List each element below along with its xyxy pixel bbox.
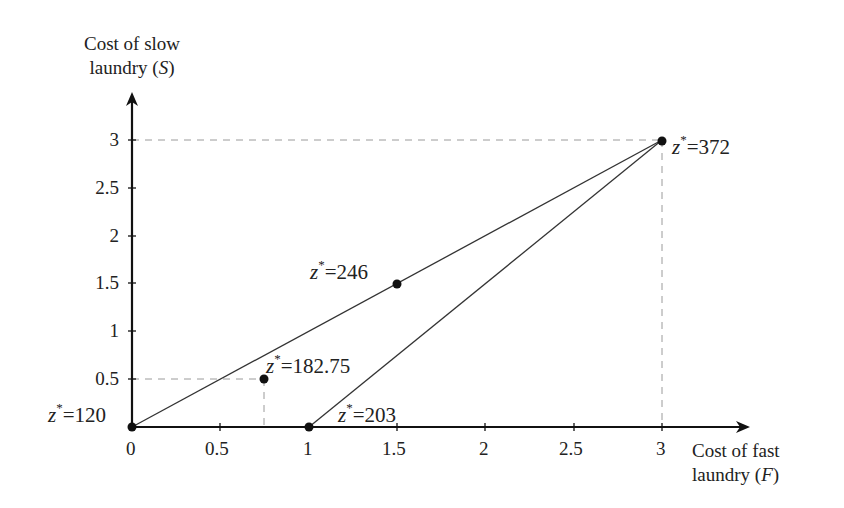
x-tick-label: 1.5 [382,439,406,458]
x-axis-title-line2: laundry (F) [692,463,812,487]
point-246 [393,280,402,289]
x-tick-label: 0 [126,439,136,458]
x-tick-label: 2.5 [559,439,583,458]
annotation-z246: z*=246 [310,258,368,283]
annotation-z120: z*=120 [48,401,106,426]
x-tick-label: 2 [479,439,489,458]
annotation-z182-75: z*=182.75 [266,352,350,377]
y-axis-title-line2: laundry (S) [52,56,212,80]
x-tick-label: 0.5 [205,439,229,458]
x-tick-label: 3 [656,439,666,458]
y-tick-label: 3 [110,130,120,149]
y-tick-label: 0.5 [95,369,119,388]
annotation-z203: z*=203 [338,401,396,426]
x-axis-title: Cost of fast laundry (F) [692,439,812,487]
point-203 [305,423,314,432]
y-tick-label: 2 [110,226,120,245]
point-120 [128,423,137,432]
y-axis-title-line1: Cost of slow [52,32,212,56]
y-tick-label: 1 [110,321,120,340]
y-tick-label: 2.5 [95,178,119,197]
point-372 [658,137,667,146]
y-tick-label: 1.5 [95,273,119,292]
x-axis-title-line1: Cost of fast [692,439,812,463]
y-axis-title: Cost of slow laundry (S) [52,32,212,80]
x-tick-label: 1 [303,439,313,458]
annotation-z372: z*=372 [672,133,730,158]
